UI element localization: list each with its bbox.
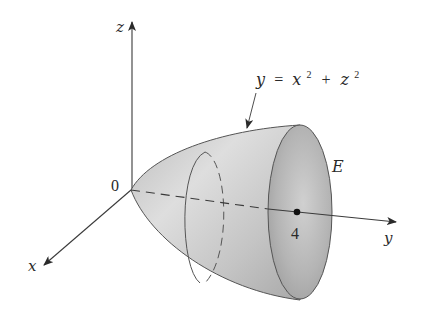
x-axis: [44, 190, 131, 265]
tick-label-4: 4: [291, 225, 299, 242]
eq-sign: =: [274, 71, 283, 88]
paraboloid-diagram: z x y 4 0 E y = x 2 + z 2: [0, 0, 424, 309]
eq-z: z: [340, 70, 350, 89]
y-axis-label: y: [383, 229, 393, 247]
x-axis-label: x: [28, 257, 37, 275]
eq-plus: +: [321, 71, 330, 88]
eq-x-exp: 2: [306, 69, 311, 80]
eq-z-exp: 2: [354, 69, 359, 80]
svg-text:y = x 2: y = x 2 + z 2: [255, 63, 359, 89]
z-axis-label: z: [115, 18, 124, 36]
region-label: E: [331, 157, 344, 176]
eq-lhs: y: [255, 70, 266, 89]
point-y4: [294, 209, 301, 216]
pointer-arrow: [247, 93, 256, 128]
eq-x: x: [292, 70, 301, 89]
surface-equation: y = x 2 + z 2: [255, 63, 359, 89]
origin-label: 0: [111, 177, 119, 194]
